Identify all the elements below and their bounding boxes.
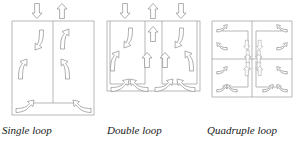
arrow-q3-side <box>217 67 227 74</box>
arrow-ascending-right <box>61 29 70 49</box>
arrow-floor-left <box>16 100 34 113</box>
caption-single-loop: Single loop <box>2 124 52 136</box>
arrow-q2-center <box>257 40 263 49</box>
panel-single-loop <box>12 4 94 116</box>
panel-double-loop <box>107 4 200 92</box>
arrow-upwelling-far-left <box>111 51 120 71</box>
arrow-floor-left <box>111 79 129 92</box>
arrow-descending-left <box>35 30 44 50</box>
arrow-ascending-center-right <box>160 53 170 68</box>
arrow-floor-right <box>177 79 195 92</box>
arrow-floor-center-right <box>155 79 173 92</box>
arrow-descending-left <box>124 28 133 48</box>
caption-double-loop: Double loop <box>107 124 162 136</box>
inner-cell-bottom-left <box>222 61 248 87</box>
inner-cell-top-left <box>222 31 248 57</box>
external-arrow-inflow-down-right <box>176 4 186 19</box>
panel-quadruple-loop <box>212 21 292 97</box>
arrow-upwelling-left <box>19 59 28 79</box>
arrow-ascending-center-top <box>148 27 158 42</box>
external-arrow-inflow-down <box>32 4 42 19</box>
arrow-q4-side <box>277 67 287 74</box>
arrow-q3-floor <box>227 85 237 92</box>
arrow-q4-corner <box>277 85 287 92</box>
arrow-q4-floor <box>263 85 273 92</box>
arrow-q3-corner <box>217 85 227 92</box>
arrow-q1-side <box>217 43 227 50</box>
caption-quadruple-loop: Quadruple loop <box>207 124 277 136</box>
arrow-descending-right <box>175 28 184 48</box>
arrow-q2-side <box>277 43 287 50</box>
arrow-floor-right <box>73 100 91 113</box>
arrow-return-right <box>61 59 70 79</box>
external-arrow-outflow-up-center <box>148 4 158 19</box>
arrow-q1-center <box>244 40 250 49</box>
arrow-upwelling-far-right <box>185 51 194 71</box>
external-arrow-outflow-up <box>57 4 67 19</box>
arrow-ascending-center-left <box>142 53 152 68</box>
external-arrow-inflow-down-left <box>120 4 130 19</box>
